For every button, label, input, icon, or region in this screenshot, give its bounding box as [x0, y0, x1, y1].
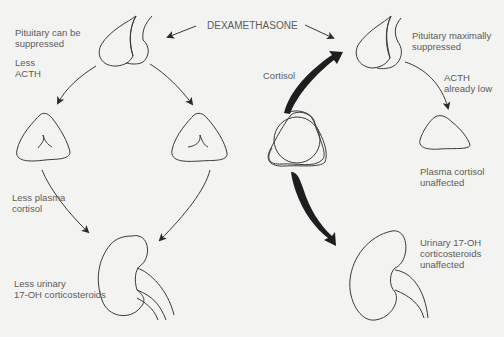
dexamethasone-arrow-right: [305, 25, 333, 38]
right-acth-arrow: [405, 62, 448, 108]
cortisol-to-kidney-arrow: [291, 172, 336, 246]
right-pituitary-icon: [356, 16, 401, 69]
left-kidney-icon: [98, 236, 174, 320]
left-acth-arrow-2: [150, 64, 192, 104]
left-adrenal-2-icon: [172, 113, 227, 161]
cortisol-feedback-arrow: [284, 51, 343, 114]
cortisol-feedback-label: Cortisol: [263, 70, 295, 81]
right-acth-label: ACTH already low: [444, 72, 492, 94]
left-pituitary-label: Pituitary can be suppressed: [15, 27, 80, 49]
left-adrenal-1-icon: [17, 113, 70, 161]
right-plasma-label: Plasma cortisol unaffected: [420, 166, 484, 188]
left-acth-arrow-1: [58, 66, 96, 103]
left-acth-label: Less ACTH: [15, 57, 41, 79]
right-urinary-label: Urinary 17-OH corticosteroids unaffected: [420, 237, 481, 270]
right-small-adrenal-icon: [420, 116, 470, 150]
dexamethasone-label: DEXAMETHASONE: [207, 20, 298, 31]
left-pituitary-icon: [99, 16, 152, 66]
right-pituitary-label: Pituitary maximally suppressed: [412, 30, 491, 52]
dexamethasone-arrow-left: [168, 26, 196, 37]
adrenal-tumor-icon: [268, 111, 326, 166]
left-urinary-label: Less urinary 17-OH corticosteroids: [14, 278, 106, 300]
left-cortisol-label: Less plasma cortisol: [12, 192, 65, 214]
right-kidney-icon: [350, 231, 428, 320]
left-cortisol-arrow-2: [160, 170, 210, 240]
